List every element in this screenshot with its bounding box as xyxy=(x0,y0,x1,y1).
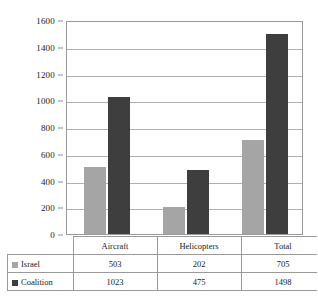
legend-swatch-icon-coalition xyxy=(12,280,18,286)
chart-screenshot: 02004006008001000120014001600 AircraftHe… xyxy=(0,0,317,302)
category-label-helicopters: Helicopters xyxy=(157,237,241,255)
table-header-spacer xyxy=(8,237,74,255)
bar-group-aircraft xyxy=(67,22,146,234)
table-cell-coalition-helicopters: 475 xyxy=(157,273,241,291)
legend-label-coalition: Coalition xyxy=(21,277,53,287)
y-tick-label-200: 200 xyxy=(41,203,55,213)
y-tick-mark-800 xyxy=(58,128,63,129)
y-tick-label-400: 400 xyxy=(41,177,55,187)
legend-label-israel: Israel xyxy=(21,259,40,269)
y-tick-mark-1400 xyxy=(58,47,63,48)
legend-item-coalition: Coalition xyxy=(8,273,74,291)
table-row: Israel503202705 xyxy=(8,255,318,273)
y-tick-label-1600: 1600 xyxy=(36,16,55,26)
bar-group-helicopters xyxy=(146,22,225,234)
y-tick-mark-1600 xyxy=(58,21,63,22)
legend-swatch-icon-israel xyxy=(12,262,18,268)
y-tick-label-1200: 1200 xyxy=(36,70,55,80)
y-tick-mark-1200 xyxy=(58,74,63,75)
table-cell-israel-aircraft: 503 xyxy=(73,255,157,273)
table-row: Coalition10234751498 xyxy=(8,273,318,291)
bar-coalition-total xyxy=(266,34,288,234)
table-cell-israel-total: 705 xyxy=(241,255,317,273)
legend-item-israel: Israel xyxy=(8,255,74,273)
category-label-total: Total xyxy=(241,237,317,255)
y-tick-mark-600 xyxy=(58,154,63,155)
bar-israel-helicopters xyxy=(163,207,185,234)
data-table-body: AircraftHelicoptersTotalIsrael503202705C… xyxy=(8,237,318,291)
y-tick-label-600: 600 xyxy=(41,150,55,160)
table-cell-israel-helicopters: 202 xyxy=(157,255,241,273)
plot-area xyxy=(66,21,303,235)
y-tick-mark-1000 xyxy=(58,101,63,102)
y-tick-label-1000: 1000 xyxy=(36,96,55,106)
y-tick-label-800: 800 xyxy=(41,123,55,133)
table-cell-coalition-total: 1498 xyxy=(241,273,317,291)
bar-israel-total xyxy=(242,140,264,234)
bar-group-total xyxy=(225,22,304,234)
category-label-aircraft: Aircraft xyxy=(73,237,157,255)
bar-coalition-helicopters xyxy=(187,170,209,234)
table-header-row: AircraftHelicoptersTotal xyxy=(8,237,318,255)
y-tick-mark-200 xyxy=(58,208,63,209)
y-tick-label-1400: 1400 xyxy=(36,43,55,53)
y-tick-mark-400 xyxy=(58,181,63,182)
y-axis: 02004006008001000120014001600 xyxy=(0,21,63,235)
bar-coalition-aircraft xyxy=(108,97,130,234)
data-table: AircraftHelicoptersTotalIsrael503202705C… xyxy=(7,236,317,291)
bar-israel-aircraft xyxy=(84,167,106,234)
table-cell-coalition-aircraft: 1023 xyxy=(73,273,157,291)
